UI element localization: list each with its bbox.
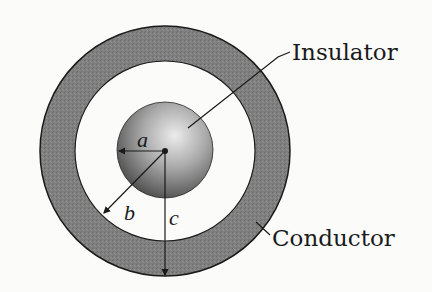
insulator-label: Insulator xyxy=(292,39,398,65)
diagram-canvas: a b c Insulator Conductor xyxy=(0,0,432,292)
radius-c-label: c xyxy=(169,205,179,230)
radius-a-label: a xyxy=(137,127,148,152)
conductor-label: Conductor xyxy=(272,225,395,251)
radius-b-label: b xyxy=(124,200,135,225)
